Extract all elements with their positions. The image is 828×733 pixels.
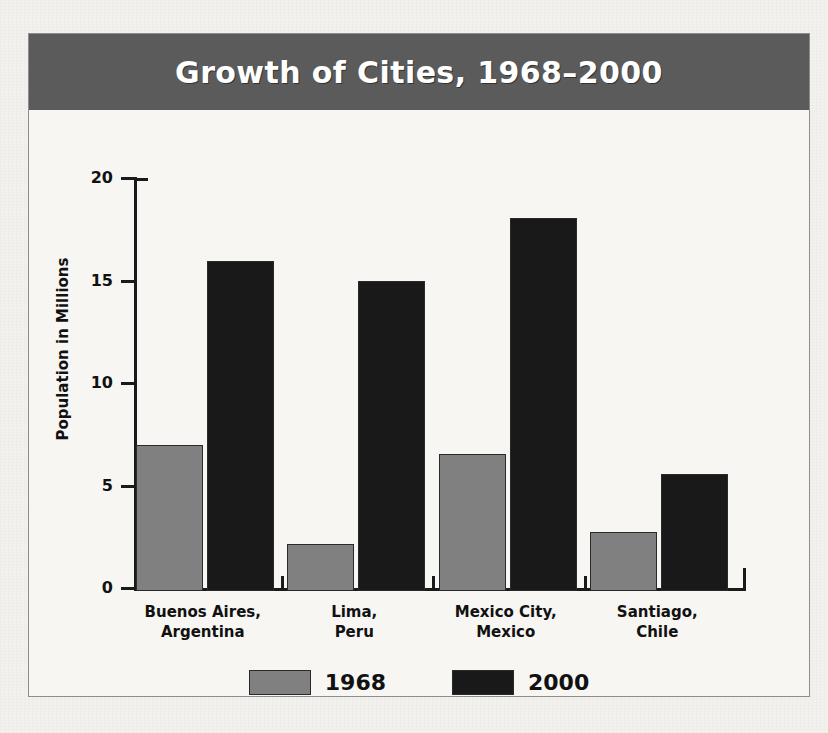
x-axis-category-label: Buenos Aires,Argentina <box>127 602 279 643</box>
y-axis-tick-label: 0 <box>67 578 113 597</box>
y-axis-tick-label: 5 <box>67 476 113 495</box>
category-label-line: Mexico <box>430 622 582 642</box>
y-axis-tick-label: 15 <box>67 271 113 290</box>
category-label-line: Peru <box>279 622 431 642</box>
chart-title: Growth of Cities, 1968–2000 <box>175 55 663 90</box>
x-axis-tick <box>281 576 284 591</box>
legend-item-1968[interactable]: 1968 <box>249 670 386 695</box>
y-axis-tick <box>121 382 137 385</box>
legend-item-2000[interactable]: 2000 <box>452 670 589 695</box>
bar-1968-buenos-aires[interactable] <box>136 445 203 591</box>
y-axis-tick-label: 10 <box>67 373 113 392</box>
bar-2000-santiago[interactable] <box>661 474 728 591</box>
bar-1968-mexico-city[interactable] <box>439 454 506 591</box>
y-axis-tick <box>121 177 137 180</box>
bar-2000-mexico-city[interactable] <box>510 218 577 591</box>
y-axis-tick <box>121 587 137 590</box>
x-axis-tick <box>432 576 435 591</box>
x-axis-category-label: Lima,Peru <box>279 602 431 643</box>
plot-area: Population in Millions 05101520 Buenos A… <box>29 110 809 696</box>
y-axis-tick-label: 20 <box>67 168 113 187</box>
category-label-line: Lima, <box>279 602 431 622</box>
figure-frame: Growth of Cities, 1968–2000 Population i… <box>28 33 810 697</box>
legend-label: 1968 <box>325 670 386 695</box>
category-label-line: Mexico City, <box>430 602 582 622</box>
x-axis-right-cap <box>743 568 746 591</box>
x-axis-tick <box>584 576 587 591</box>
legend-label: 2000 <box>528 670 589 695</box>
legend-swatch <box>249 670 311 695</box>
category-label-line: Santiago, <box>582 602 734 622</box>
category-label-line: Chile <box>582 622 734 642</box>
x-axis-category-label: Santiago,Chile <box>582 602 734 643</box>
x-axis-category-label: Mexico City,Mexico <box>430 602 582 643</box>
y-axis-tick <box>121 485 137 488</box>
y-axis-tick <box>121 280 137 283</box>
legend-swatch <box>452 670 514 695</box>
bar-2000-lima[interactable] <box>358 281 425 591</box>
title-band: Growth of Cities, 1968–2000 <box>29 34 809 110</box>
category-label-line: Argentina <box>127 622 279 642</box>
bar-2000-buenos-aires[interactable] <box>207 261 274 591</box>
chart-legend: 19682000 <box>29 670 809 695</box>
bar-1968-lima[interactable] <box>287 544 354 591</box>
category-label-line: Buenos Aires, <box>127 602 279 622</box>
bar-1968-santiago[interactable] <box>590 532 657 591</box>
